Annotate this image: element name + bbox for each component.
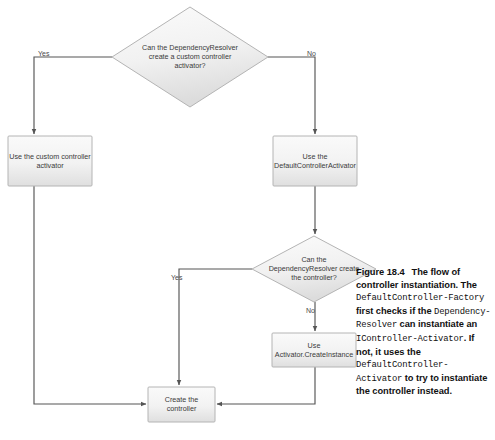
figure-number: Figure 18.4 [356, 267, 405, 277]
node-use-custom-activator [8, 136, 92, 186]
figure-caption: Figure 18.4The flow of controller instan… [356, 266, 492, 398]
node-use-activator-createinstance [272, 333, 356, 367]
edge-custom-create [34, 186, 146, 404]
figure-canvas: Can the DependencyResolver create a cust… [0, 0, 495, 440]
node-use-default-activator [273, 136, 357, 186]
edge-label-yes-custom: Yes [38, 50, 49, 58]
figure-caption-body: The flow of controller instantiation. Th… [356, 267, 490, 396]
node-decision-resolver-activator [112, 7, 268, 107]
edge-yes-create [179, 269, 252, 385]
edge-yes-custom [34, 57, 112, 134]
edge-label-no-activator: No [306, 307, 315, 315]
edge-label-no-default: No [307, 50, 316, 58]
edge-activator-create [217, 367, 315, 404]
edge-no-default [268, 57, 315, 134]
node-create-the-controller [148, 387, 215, 422]
edge-label-yes-create: Yes [171, 274, 182, 282]
